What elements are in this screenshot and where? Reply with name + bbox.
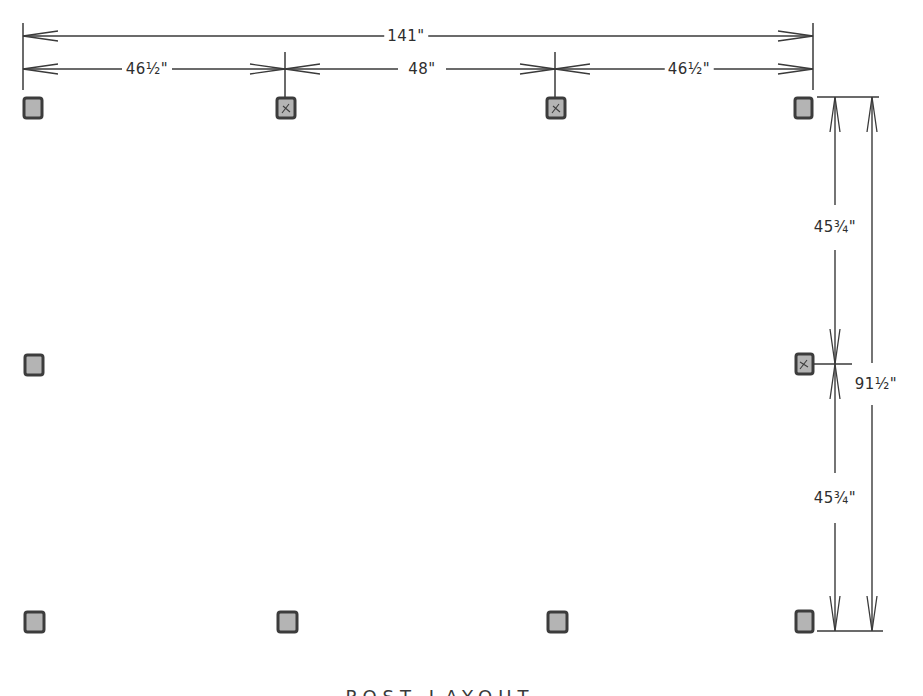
label-bay-right: 46½" [665,61,714,78]
post [25,612,44,632]
label-bay-left: 46½" [123,61,172,78]
label-bay-center: 48" [405,61,439,78]
post-row-back [25,611,813,632]
post-layout-drawing [0,0,923,696]
post [795,98,812,118]
label-depth-lower: 45¾" [814,486,857,511]
post [796,611,813,632]
label-overall-width: 141" [384,28,428,45]
dimension-overall-depth [867,97,877,631]
post [25,355,43,375]
post-row-front [24,98,812,118]
post [278,612,297,632]
post [24,98,42,118]
post-row-middle [25,354,813,375]
drawing-caption: POST LAYOUT [320,682,560,696]
label-overall-depth: 91½" [855,372,898,397]
label-depth-upper: 45¾" [814,215,857,240]
post [548,612,567,632]
